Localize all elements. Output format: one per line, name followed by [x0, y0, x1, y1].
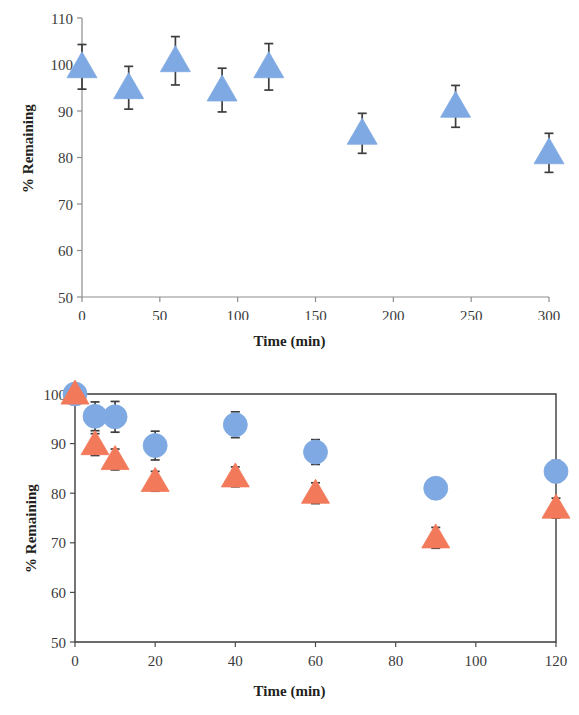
x-tick-label: 250 — [460, 308, 483, 320]
axis-frame — [82, 18, 549, 297]
data-point-triangle — [441, 91, 471, 117]
y-tick-label: 100 — [51, 57, 74, 73]
y-axis-ticks: 5060708090100 — [44, 387, 76, 651]
data-point-circle — [143, 434, 167, 458]
y-axis-ticks: 5060708090100110 — [51, 11, 83, 306]
plot-area-bottom: 5060708090100020406080100120 — [0, 368, 579, 673]
x-tick-label: 200 — [382, 308, 405, 320]
x-axis-ticks: 050100150200250300 — [78, 297, 560, 320]
y-tick-label: 50 — [58, 290, 73, 306]
y-tick-label: 70 — [58, 197, 73, 213]
data-point-circle — [223, 413, 247, 437]
y-tick-label: 80 — [51, 486, 66, 502]
x-tick-label: 0 — [71, 653, 79, 669]
data-point-triangle — [534, 138, 564, 164]
x-tick-label: 50 — [152, 308, 167, 320]
data-point-triangle — [141, 467, 169, 491]
x-tick-label: 300 — [538, 308, 561, 320]
plot-box-border — [75, 394, 556, 642]
data-point-triangle — [422, 524, 450, 548]
data-point-triangle — [254, 52, 284, 78]
data-point-triangle — [347, 118, 377, 144]
y-tick-label: 80 — [58, 150, 73, 166]
axis-frame — [75, 394, 556, 642]
data-series-series-1 — [67, 37, 564, 173]
data-point-triangle — [302, 479, 330, 503]
y-tick-label: 60 — [51, 585, 66, 601]
y-axis-title-bottom: % Remaining — [23, 454, 40, 604]
data-point-triangle — [221, 463, 249, 487]
y-tick-label: 60 — [58, 243, 73, 259]
data-point-circle — [103, 405, 127, 429]
chart-bottom: % Remaining Time (min) 50607080901000204… — [0, 368, 579, 715]
y-tick-label: 90 — [58, 104, 73, 120]
y-tick-label: 50 — [51, 635, 66, 651]
y-axis-title-top: % Remaining — [20, 74, 37, 224]
y-tick-label: 70 — [51, 535, 66, 551]
figure-page: % Remaining Time (min) 50607080901001100… — [0, 0, 579, 715]
y-tick-label: 110 — [51, 11, 73, 27]
data-point-circle — [544, 459, 568, 483]
x-axis-title-bottom: Time (min) — [0, 683, 579, 700]
x-tick-label: 20 — [148, 653, 163, 669]
x-tick-label: 100 — [465, 653, 488, 669]
x-tick-label: 80 — [388, 653, 403, 669]
x-tick-label: 0 — [78, 308, 86, 320]
chart-top: % Remaining Time (min) 50607080901001100… — [0, 0, 579, 368]
data-point-triangle — [114, 73, 144, 99]
data-point-triangle — [542, 494, 570, 518]
data-point-triangle — [81, 431, 109, 455]
data-point-triangle — [160, 46, 190, 72]
plot-area-top: 5060708090100110050100150200250300 — [0, 0, 579, 320]
x-tick-label: 40 — [228, 653, 243, 669]
data-point-circle — [424, 476, 448, 500]
x-axis-ticks: 020406080100120 — [71, 642, 567, 669]
x-tick-label: 120 — [545, 653, 568, 669]
data-point-circle — [304, 440, 328, 464]
axis-left-bottom — [82, 18, 549, 297]
x-axis-title-top: Time (min) — [0, 333, 579, 350]
y-tick-label: 90 — [51, 436, 66, 452]
x-tick-label: 60 — [308, 653, 323, 669]
x-tick-label: 100 — [226, 308, 249, 320]
x-tick-label: 150 — [304, 308, 327, 320]
data-point-triangle — [207, 75, 237, 101]
